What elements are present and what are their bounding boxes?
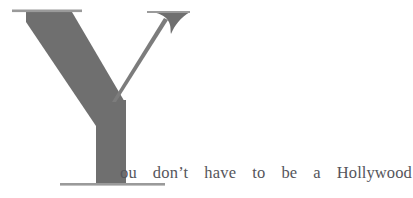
body-word: have xyxy=(204,162,236,184)
y-right-arm-serif xyxy=(147,11,190,34)
body-word: ou xyxy=(120,162,137,184)
body-word: to xyxy=(252,162,265,184)
body-word: a xyxy=(313,162,321,184)
y-left-top-serif xyxy=(12,10,82,13)
page-canvas: ou don’t have to be a Hollywood xyxy=(0,0,413,198)
body-word: Hollywood xyxy=(337,162,412,184)
body-text-line: ou don’t have to be a Hollywood xyxy=(120,162,412,192)
body-word: be xyxy=(281,162,297,184)
body-word: don’t xyxy=(153,162,189,184)
y-right-arm-hairline xyxy=(112,18,168,102)
y-right-serif-bar xyxy=(147,11,190,13)
